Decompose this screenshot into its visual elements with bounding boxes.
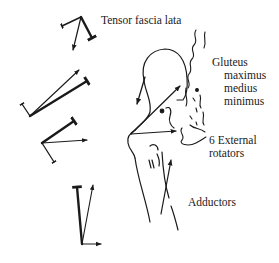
label-adductors: Adductors <box>188 196 236 209</box>
adductors-vector-component <box>82 185 93 244</box>
label-gluteus: Gluteus maximus medius minimus <box>212 56 266 108</box>
label-external-rotators-line1: 6 External <box>209 134 257 147</box>
rotators-vector-component <box>42 140 87 143</box>
label-external-rotators: 6 External rotators <box>209 134 257 160</box>
pelvis-outline <box>181 30 206 145</box>
adductors-femur-vector <box>161 160 171 214</box>
tfl-femur-vector <box>137 77 145 104</box>
rotators-vector-resultant <box>42 121 74 143</box>
tfl-vector-component <box>73 17 81 50</box>
tfl-vector-resultant <box>81 17 92 38</box>
adductors-vector-group <box>77 185 101 244</box>
external-rotators-vector-group <box>42 121 87 162</box>
label-gluteus-heading: Gluteus <box>212 56 248 68</box>
adductors-vector-resultant <box>77 187 82 244</box>
hip-force-diagram <box>0 0 279 263</box>
label-external-rotators-line2: rotators <box>209 147 257 160</box>
gluteus-vector-small <box>22 104 30 116</box>
label-tensor-fascia-lata: Tensor fascia lata <box>101 14 181 27</box>
rotators-femur-vector <box>131 131 176 134</box>
rotators-vector-small <box>42 143 54 162</box>
tfl-vector-small <box>62 17 81 26</box>
femur-outline <box>128 49 187 230</box>
gluteus-vector-component <box>30 70 79 116</box>
gluteus-vector-group <box>22 70 87 116</box>
tfl-vector-group <box>62 17 92 50</box>
label-gluteus-minimus: minimus <box>212 95 266 108</box>
gluteus-vector-resultant <box>30 81 87 116</box>
label-gluteus-maximus: maximus <box>212 69 266 82</box>
label-gluteus-medius: medius <box>212 82 266 95</box>
